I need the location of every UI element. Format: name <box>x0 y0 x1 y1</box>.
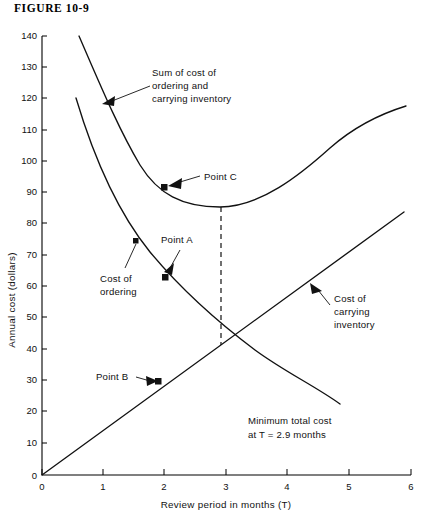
sum-cost-leader-line <box>112 86 150 101</box>
point-c-arrowhead-icon <box>168 178 182 189</box>
ordering-cost-label-line1: Cost of <box>100 273 132 284</box>
x-tick-label-5: 5 <box>346 481 351 492</box>
y-tick-label-0: 0 <box>32 470 37 481</box>
y-tick-label-70: 70 <box>26 249 37 260</box>
carrying-cost-annotation: Cost of carrying inventory <box>310 283 375 330</box>
ordering-cost-annotation: Cost of ordering <box>100 244 137 297</box>
x-axis-title: Review period in months (T) <box>161 499 292 510</box>
point-c-leader-line <box>180 176 200 182</box>
x-axis: 0 1 2 3 4 5 6 Review period in months (T… <box>39 469 413 510</box>
ordering-cost-label-line2: ordering <box>100 286 137 297</box>
ordering-callout-marker <box>133 238 139 244</box>
point-b-label: Point B <box>96 371 128 382</box>
x-tick-label-2: 2 <box>161 481 166 492</box>
point-a-marker[interactable] <box>162 274 169 281</box>
minimum-cost-annotation: Minimum total cost at T = 2.9 months <box>248 415 332 440</box>
y-tick-label-110: 110 <box>22 124 37 135</box>
sum-cost-label-line3: carrying inventory <box>152 93 231 104</box>
y-tick-label-130: 130 <box>21 61 37 72</box>
carrying-cost-label-line3: inventory <box>334 319 375 330</box>
y-tick-label-100: 100 <box>21 155 37 166</box>
minimum-cost-label-line1: Minimum total cost <box>248 415 332 426</box>
sum-cost-annotation: Sum of cost of ordering and carrying inv… <box>102 67 231 106</box>
total-cost-curve <box>79 36 406 207</box>
sum-cost-arrowhead-icon <box>102 96 115 106</box>
carrying-cost-label-line1: Cost of <box>334 293 366 304</box>
y-tick-label-50: 50 <box>26 311 37 322</box>
x-tick-label-3: 3 <box>223 481 228 492</box>
minimum-cost-label-line2: at T = 2.9 months <box>248 429 326 440</box>
y-tick-label-90: 90 <box>26 186 37 197</box>
y-axis-title: Annual cost (dollars) <box>6 252 17 348</box>
y-tick-label-30: 30 <box>26 374 37 385</box>
y-tick-label-120: 120 <box>21 92 37 103</box>
ordering-cost-curve <box>76 98 340 404</box>
x-tick-label-0: 0 <box>39 481 44 492</box>
x-tick-label-6: 6 <box>408 481 413 492</box>
point-c-label: Point C <box>204 171 237 182</box>
chart-svg: 140 130 120 110 100 90 80 70 60 50 40 30… <box>0 0 421 519</box>
point-c-marker[interactable] <box>161 184 168 191</box>
ordering-cost-leader-line <box>125 244 136 268</box>
y-tick-label-10: 10 <box>26 437 37 448</box>
point-b-annotation: Point B <box>96 371 158 386</box>
point-c-annotation: Point C <box>168 171 237 189</box>
y-tick-label-140: 140 <box>21 30 37 41</box>
sum-cost-label-line2: ordering and <box>152 80 208 91</box>
x-tick-label-4: 4 <box>284 481 289 492</box>
carrying-cost-line <box>42 212 404 475</box>
y-tick-label-40: 40 <box>26 343 37 354</box>
y-tick-label-20: 20 <box>26 405 37 416</box>
sum-cost-label-line1: Sum of cost of <box>152 67 216 78</box>
carrying-cost-leader-line <box>318 290 330 305</box>
y-tick-label-60: 60 <box>26 280 37 291</box>
carrying-cost-label-line2: carrying <box>334 306 370 317</box>
y-axis: 140 130 120 110 100 90 80 70 60 50 40 30… <box>6 30 47 481</box>
point-a-annotation: Point A <box>161 234 193 275</box>
x-tick-label-1: 1 <box>100 481 105 492</box>
y-tick-label-80: 80 <box>26 217 37 228</box>
eoq-cost-chart: 140 130 120 110 100 90 80 70 60 50 40 30… <box>0 0 421 519</box>
point-a-label: Point A <box>161 234 193 245</box>
